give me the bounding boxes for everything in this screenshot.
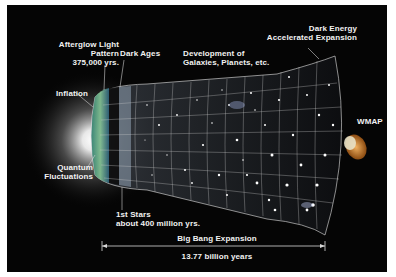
development-label-line2: Galaxies, Planets, etc.	[183, 58, 269, 67]
universe-timeline-diagram: Afterglow Light Pattern 375,000 yrs. Dar…	[7, 5, 387, 272]
dark-energy-label: Dark Energy Accelerated Expansion	[253, 24, 357, 42]
dark-energy-label-line2: Accelerated Expansion	[253, 33, 357, 42]
first-stars-label-line1: 1st Stars	[116, 210, 200, 219]
first-stars-band	[119, 86, 131, 187]
quantum-fluctuations-label: Quantum Fluctuations	[37, 163, 93, 181]
afterglow-label-line3: 375,000 yrs.	[53, 58, 119, 67]
dark-ages-band	[109, 87, 119, 185]
wmap-label: WMAP	[357, 117, 383, 126]
first-stars-label-line2: about 400 million yrs.	[116, 219, 200, 228]
afterglow-label-line1: Afterglow Light	[53, 40, 119, 49]
development-label: Development of Galaxies, Planets, etc.	[183, 49, 269, 67]
afterglow-label: Afterglow Light Pattern 375,000 yrs.	[53, 40, 119, 67]
big-bang-expansion-label: Big Bang Expansion	[157, 234, 277, 243]
afterglow-label-line2: Pattern	[53, 49, 119, 58]
wmap-satellite-icon	[341, 131, 370, 163]
quantum-label-line1: Quantum	[37, 163, 93, 172]
dark-ages-label: Dark Ages	[120, 49, 160, 58]
quantum-label-line2: Fluctuations	[37, 172, 93, 181]
afterglow-band	[92, 88, 110, 183]
universe-age-label: 13.77 billion years	[157, 252, 277, 261]
development-label-line1: Development of	[183, 49, 269, 58]
galaxy-cluster	[229, 101, 245, 109]
galaxy-cluster	[301, 202, 313, 208]
first-stars-label: 1st Stars about 400 million yrs.	[116, 210, 200, 228]
inflation-label: Inflation	[56, 89, 88, 98]
dark-energy-label-line1: Dark Energy	[253, 24, 357, 33]
